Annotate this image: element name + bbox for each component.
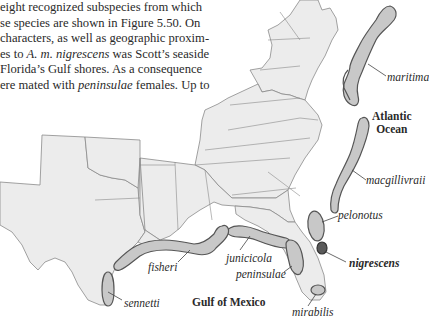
label-fisheri: fisheri xyxy=(148,262,177,274)
label-peninsulae: peninsulae xyxy=(236,269,286,281)
text-line-4: es to A. m. nigrescens was Scott’s seasi… xyxy=(0,47,240,63)
label-macgillivraii: macgillivraii xyxy=(366,175,425,187)
label-nigrescens: nigrescens xyxy=(349,258,399,270)
range-nigrescens xyxy=(317,242,327,254)
gulf-of-mexico-label: Gulf of Mexico xyxy=(192,297,265,309)
text-line-5: Florida’s Gulf shores. As a consequence xyxy=(0,62,240,78)
text-line-6: ere mated with peninsulae females. Up to xyxy=(0,78,240,94)
text-line-3: characters, as well as geographic proxim… xyxy=(0,31,240,47)
label-pelonotus: pelonotus xyxy=(338,210,383,222)
range-macgillivraii xyxy=(331,117,369,213)
species-name: A. m. nigrescens xyxy=(27,47,110,61)
range-pelonotus xyxy=(306,210,326,242)
label-sennetti: sennetti xyxy=(124,298,160,310)
text-line-1: eight recognized subspecies from which xyxy=(0,0,240,16)
subspecies-name: peninsulae xyxy=(78,78,133,92)
label-mirabilis: mirabilis xyxy=(292,307,334,319)
body-text: eight recognized subspecies from which s… xyxy=(0,0,240,94)
atlantic-ocean-label: AtlanticOcean xyxy=(372,110,412,136)
range-sennetti xyxy=(102,272,114,306)
label-junicicola: junicicola xyxy=(226,253,272,265)
label-maritima: maritima xyxy=(387,72,429,84)
range-mirabilis xyxy=(311,285,325,295)
text-line-2: se species are shown in Figure 5.50. On xyxy=(0,16,240,32)
range-maritima xyxy=(343,6,396,106)
